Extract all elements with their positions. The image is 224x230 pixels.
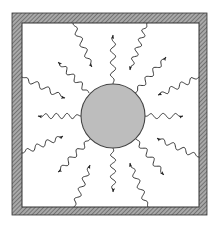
sphere <box>81 84 145 148</box>
diagram-canvas <box>0 0 224 230</box>
sphere-body <box>81 84 145 148</box>
